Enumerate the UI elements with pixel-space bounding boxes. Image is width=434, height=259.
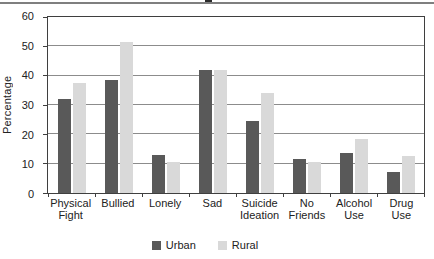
y-axis-label-60: 60: [22, 11, 34, 22]
x-axis-tick-6: [330, 193, 331, 197]
legend-label-rural: Rural: [232, 239, 258, 251]
bar-group-sad: [189, 17, 236, 193]
bar-groups: [48, 17, 424, 193]
bar-group-lonely: [142, 17, 189, 193]
x-axis-tick-3: [189, 193, 190, 197]
y-axis-labels: 0102030405060: [0, 16, 42, 194]
bar-group-no-friends: [283, 17, 330, 193]
x-axis-tick-0: [48, 193, 49, 197]
bar-rural-physical-fight: [73, 83, 86, 193]
x-axis-label-suicide-ideation: Suicide Ideation: [236, 198, 283, 221]
bar-urban-bullied: [105, 80, 118, 193]
y-axis-tick-20: [43, 134, 48, 135]
bar-rural-drug-use: [402, 156, 415, 193]
x-axis-label-drug-use: Drug Use: [378, 198, 425, 221]
bar-rural-sad: [214, 70, 227, 193]
bar-urban-sad: [199, 70, 212, 193]
legend-swatch-rural: [218, 241, 227, 250]
legend-swatch-urban: [152, 241, 161, 250]
horizontal-rule: [0, 2, 434, 4]
bar-group-drug-use: [377, 17, 424, 193]
x-axis-label-alcohol-use: Alcohol Use: [331, 198, 378, 221]
x-axis-label-bullied: Bullied: [94, 198, 141, 221]
scanned-figure-page: Percentage 0102030405060 Physical FightB…: [0, 0, 434, 259]
legend-label-urban: Urban: [166, 239, 196, 251]
bar-urban-suicide-ideation: [246, 121, 259, 193]
bar-rural-suicide-ideation: [261, 93, 274, 193]
legend-item-urban: Urban: [152, 239, 196, 251]
y-axis-tick-60: [43, 17, 48, 18]
y-axis-tick-0: [43, 193, 48, 194]
x-axis-label-no-friends: No Friends: [283, 198, 330, 221]
x-axis-label-lonely: Lonely: [142, 198, 189, 221]
legend-item-rural: Rural: [218, 239, 258, 251]
bar-urban-alcohol-use: [340, 153, 353, 193]
y-axis-label-0: 0: [28, 189, 34, 200]
bar-urban-no-friends: [293, 159, 306, 193]
plot-area: [47, 16, 425, 194]
x-axis-tick-2: [142, 193, 143, 197]
x-axis-tick-8: [424, 193, 425, 197]
y-axis-tick-30: [43, 105, 48, 106]
x-axis-labels: Physical FightBulliedLonelySadSuicide Id…: [47, 198, 425, 221]
bar-rural-alcohol-use: [355, 139, 368, 193]
bar-group-alcohol-use: [330, 17, 377, 193]
y-axis-label-40: 40: [22, 70, 34, 81]
x-axis-tick-5: [283, 193, 284, 197]
legend: UrbanRural: [0, 239, 422, 251]
x-axis-tick-1: [95, 193, 96, 197]
bar-urban-physical-fight: [58, 99, 71, 193]
bar-group-physical-fight: [48, 17, 95, 193]
bar-urban-drug-use: [387, 172, 400, 193]
x-axis-label-physical-fight: Physical Fight: [47, 198, 94, 221]
y-axis-tick-50: [43, 46, 48, 47]
bar-rural-no-friends: [308, 162, 321, 193]
y-axis-tick-40: [43, 75, 48, 76]
y-axis-tick-10: [43, 163, 48, 164]
x-axis-label-sad: Sad: [189, 198, 236, 221]
y-axis-label-50: 50: [22, 40, 34, 51]
bar-group-suicide-ideation: [236, 17, 283, 193]
y-axis-label-20: 20: [22, 129, 34, 140]
bar-rural-bullied: [120, 42, 133, 193]
y-axis-label-10: 10: [22, 159, 34, 170]
x-axis-tick-7: [377, 193, 378, 197]
bar-group-bullied: [95, 17, 142, 193]
x-axis-tick-4: [236, 193, 237, 197]
bar-rural-lonely: [167, 162, 180, 193]
bar-urban-lonely: [152, 155, 165, 193]
y-axis-label-30: 30: [22, 100, 34, 111]
